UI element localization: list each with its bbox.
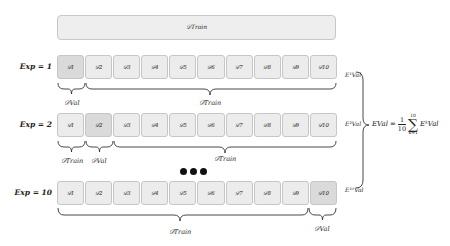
average-error-formula: EVal = 1 10 10 ∑ k=1 EᵏVal — [372, 113, 439, 135]
sigma-icon: ∑ — [408, 118, 418, 130]
error-label-10: E¹⁰Val — [345, 186, 363, 193]
error-label-1: E¹Val — [345, 71, 361, 78]
formula-fraction: 1 10 — [398, 116, 406, 133]
summation: 10 ∑ k=1 — [408, 113, 418, 135]
formula-equals: = — [390, 120, 396, 128]
fraction-denominator: 10 — [398, 125, 406, 133]
error-label-2: E²Val — [345, 120, 361, 127]
sum-lower-limit: k=1 — [408, 130, 417, 135]
fraction-numerator: 1 — [400, 116, 404, 124]
formula-lhs: EVal — [372, 120, 388, 128]
formula-term: EᵏVal — [420, 120, 439, 128]
